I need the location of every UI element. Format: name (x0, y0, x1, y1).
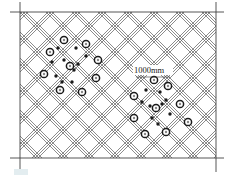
dimension-label: 1000mm (134, 65, 165, 75)
dot-marker (60, 80, 63, 83)
diagonal-lattice (0, 0, 232, 180)
caption-marker (14, 169, 28, 175)
dot-marker (62, 58, 65, 61)
dot-marker (164, 98, 167, 101)
dot-marker (168, 112, 171, 115)
dot-marker (76, 62, 79, 65)
dot-marker (156, 122, 159, 125)
dot-marker (74, 46, 77, 49)
dot-marker (160, 102, 163, 105)
dot-marker (140, 100, 143, 103)
dot-marker (72, 68, 75, 71)
dot-marker (148, 104, 151, 107)
dot-marker (158, 90, 161, 93)
dot-marker (84, 54, 87, 57)
dot-marker (144, 88, 147, 91)
dot-marker (70, 80, 73, 83)
mesh-diagram: 1000mm (0, 0, 232, 180)
dot-marker (50, 60, 53, 63)
caption-text (60, 169, 220, 175)
dot-marker (150, 116, 153, 119)
dot-marker (54, 74, 57, 77)
dot-marker (56, 46, 59, 49)
